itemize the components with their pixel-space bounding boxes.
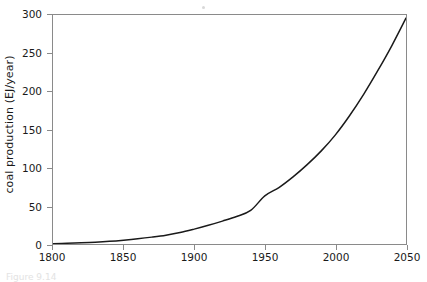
y-tick-label: 0 (8, 240, 42, 250)
x-tick-mark (194, 245, 195, 250)
x-tick-mark (407, 245, 408, 250)
x-tick-mark (265, 245, 266, 250)
x-tick-label: 1800 (29, 252, 75, 263)
y-tick-label: 50 (8, 202, 42, 212)
x-tick-mark (336, 245, 337, 250)
x-tick-label: 2050 (384, 252, 427, 263)
x-tick-label: 1850 (100, 252, 146, 263)
plot-area (52, 14, 407, 245)
x-tick-mark (123, 245, 124, 250)
y-tick-label: 100 (8, 163, 42, 173)
x-tick-mark (52, 245, 53, 250)
y-tick-label: 250 (8, 48, 42, 58)
coal-production-curve (53, 15, 406, 244)
x-tick-label: 1900 (171, 252, 217, 263)
x-tick-label: 2000 (313, 252, 359, 263)
y-tick-label: 300 (8, 9, 42, 19)
y-tick-label: 200 (8, 86, 42, 96)
figure-caption: Figure 9.14 (6, 272, 56, 282)
y-tick-label: 150 (8, 125, 42, 135)
x-tick-label: 1950 (242, 252, 288, 263)
series-line-coal-production (53, 18, 406, 244)
dust-speck (202, 6, 205, 9)
